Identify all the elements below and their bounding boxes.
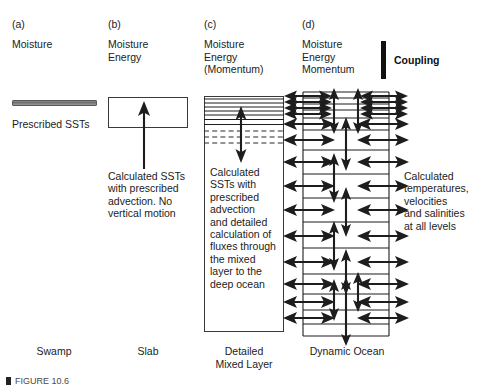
figure-caption-text: FIGURE 10.6 bbox=[15, 376, 69, 385]
model-name-mixed-layer: Detailed Mixed Layer bbox=[204, 345, 284, 370]
column-letter-b: (b) bbox=[108, 18, 121, 30]
model-name-swamp: Swamp bbox=[12, 345, 96, 358]
column-letter-c: (c) bbox=[204, 18, 216, 30]
column-variables-c: Moisture Energy (Momentum) bbox=[204, 38, 264, 76]
mixed-layer-description: Calculated SSTs with prescribed advectio… bbox=[210, 166, 284, 290]
column-variables-a: Moisture bbox=[12, 38, 52, 51]
slab-description: Calculated SSTs with prescribed advectio… bbox=[108, 170, 200, 220]
column-letter-a: (a) bbox=[12, 18, 25, 30]
column-variables-d: Moisture Energy Momentum bbox=[302, 38, 355, 76]
slab-flux-arrow-icon bbox=[108, 97, 203, 172]
swamp-description: Prescribed SSTs bbox=[12, 118, 107, 130]
column-variables-b: Moisture Energy bbox=[108, 38, 148, 63]
column-letter-d: (d) bbox=[302, 18, 315, 30]
model-name-slab: Slab bbox=[108, 345, 188, 358]
figure-bullet-icon bbox=[6, 377, 11, 385]
coupling-label: Coupling bbox=[394, 54, 440, 66]
model-name-dynamic-ocean: Dynamic Ocean bbox=[290, 345, 404, 358]
mixed-layer-vertical-flux-arrow-icon bbox=[204, 96, 284, 166]
dynamic-ocean-description: Calculated temperatures, velocities and … bbox=[404, 170, 482, 232]
swamp-surface-bar bbox=[12, 100, 97, 106]
dynamic-ocean-diagram bbox=[286, 88, 408, 346]
figure-caption: FIGURE 10.6 bbox=[6, 376, 476, 385]
coupling-bar-icon bbox=[381, 41, 386, 79]
